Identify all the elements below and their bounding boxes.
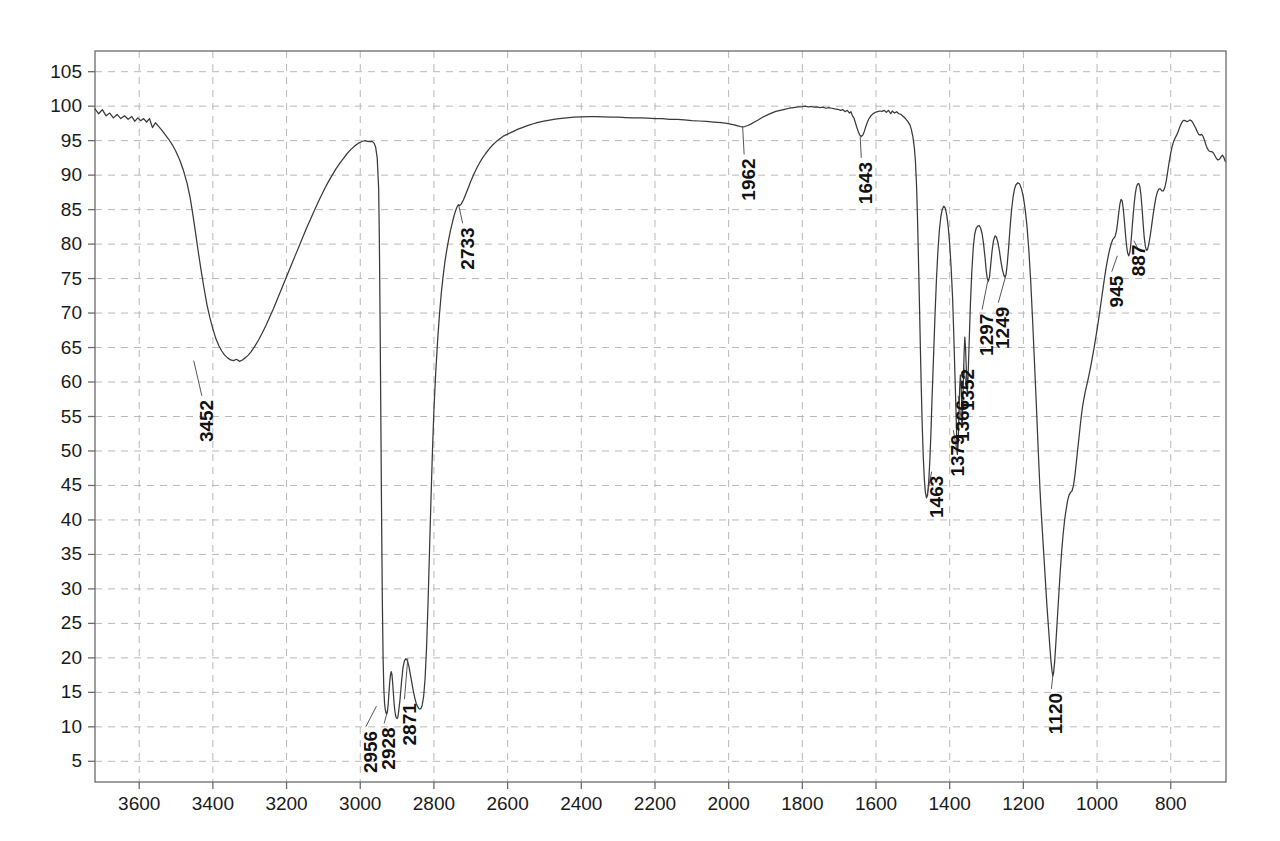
y-tick-label: 5: [71, 750, 82, 771]
spectrum-page: 3600340032003000280026002400220020001800…: [0, 0, 1280, 841]
peak-label: 2928: [378, 727, 399, 769]
x-tick-label: 2000: [708, 793, 750, 814]
y-tick-label: 95: [61, 130, 82, 151]
x-tick-label: 1200: [1002, 793, 1044, 814]
peak-label: 1643: [855, 162, 876, 204]
ir-spectrum-chart: 3600340032003000280026002400220020001800…: [0, 0, 1280, 841]
y-tick-label: 70: [61, 302, 82, 323]
y-tick-label: 90: [61, 164, 82, 185]
y-tick-label: 45: [61, 474, 82, 495]
peak-label: 1962: [738, 158, 759, 200]
x-tick-label: 2800: [413, 793, 455, 814]
x-tick-label: 3600: [118, 793, 160, 814]
peak-label: 2733: [457, 227, 478, 269]
y-tick-label: 50: [61, 440, 82, 461]
x-tick-label: 1600: [855, 793, 897, 814]
peak-label: 1120: [1045, 693, 1066, 734]
peak-label: 2871: [399, 703, 420, 746]
x-tick-label: 3000: [339, 793, 381, 814]
y-tick-label: 40: [61, 509, 82, 530]
y-tick-label: 10: [61, 716, 82, 737]
x-tick-label: 1000: [1076, 793, 1118, 814]
y-tick-label: 20: [61, 647, 82, 668]
x-tick-label: 2600: [486, 793, 528, 814]
peak-label: 1352: [957, 369, 978, 411]
y-tick-label: 30: [61, 578, 82, 599]
x-tick-label: 1800: [781, 793, 823, 814]
y-tick-label: 100: [50, 95, 82, 116]
peak-label: 887: [1128, 245, 1149, 277]
y-tick-label: 60: [61, 371, 82, 392]
peak-label: 1463: [926, 476, 947, 518]
x-tick-label: 1400: [929, 793, 971, 814]
peak-label: 1249: [992, 307, 1013, 349]
y-tick-label: 25: [61, 612, 82, 633]
peak-label: 3452: [196, 400, 217, 442]
y-tick-label: 15: [61, 681, 82, 702]
chart-background: [0, 0, 1280, 841]
x-tick-label: 2400: [560, 793, 602, 814]
y-tick-label: 55: [61, 406, 82, 427]
y-tick-label: 65: [61, 337, 82, 358]
y-tick-label: 105: [50, 61, 82, 82]
x-axis-tick-labels: 3600340032003000280026002400220020001800…: [118, 793, 1187, 814]
x-tick-label: 3200: [265, 793, 307, 814]
y-tick-label: 85: [61, 199, 82, 220]
y-tick-label: 75: [61, 268, 82, 289]
y-tick-label: 35: [61, 543, 82, 564]
x-tick-label: 800: [1155, 793, 1187, 814]
y-tick-label: 80: [61, 233, 82, 254]
peak-label: 945: [1106, 275, 1127, 307]
x-tick-label: 2200: [634, 793, 676, 814]
x-tick-label: 3400: [192, 793, 234, 814]
